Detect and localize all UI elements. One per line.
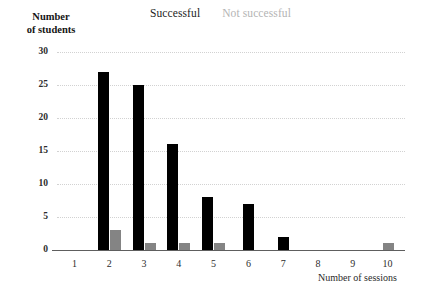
x-axis-line <box>52 250 405 251</box>
bar-group <box>162 144 196 250</box>
bar-group <box>266 237 300 250</box>
bar-group <box>231 204 265 250</box>
bar-successful <box>243 204 254 250</box>
y-axis-title-line-2: of students <box>27 24 76 35</box>
x-axis-tick-label: 2 <box>97 258 121 269</box>
y-axis-tick-label: 10 <box>22 178 48 188</box>
chart-legend: Successful Not successful <box>150 7 291 19</box>
legend-item-not-successful: Not successful <box>222 7 291 19</box>
y-axis-tick-label: 25 <box>22 79 48 89</box>
y-axis-title-line-1: Number <box>32 11 69 22</box>
x-axis-tick-label: 10 <box>376 258 400 269</box>
bar-group <box>197 197 231 250</box>
x-axis-tick-label: 3 <box>132 258 156 269</box>
bar-chart: Successful Not successful Number of stud… <box>0 0 423 296</box>
bar-group <box>371 243 405 250</box>
x-axis-tick-label: 4 <box>167 258 191 269</box>
bar-not-successful <box>179 243 190 250</box>
x-axis-tick-label: 9 <box>341 258 365 269</box>
bar-group <box>127 85 161 250</box>
bar-successful <box>202 197 213 250</box>
x-axis-tick-label: 5 <box>202 258 226 269</box>
y-axis-tick-label: 15 <box>22 145 48 155</box>
y-axis-title: Number of students <box>8 10 94 36</box>
bar-group <box>92 72 126 250</box>
bar-successful <box>167 144 178 250</box>
y-axis-tick-label: 0 <box>22 244 48 254</box>
bar-not-successful <box>214 243 225 250</box>
x-axis-tick-label: 6 <box>236 258 260 269</box>
plot-area <box>57 52 405 250</box>
x-axis-title: Number of sessions <box>318 272 397 283</box>
x-axis-tick-label: 8 <box>306 258 330 269</box>
bar-not-successful <box>110 230 121 250</box>
bar-not-successful <box>383 243 394 250</box>
bar-not-successful <box>145 243 156 250</box>
x-axis-tick-label: 7 <box>271 258 295 269</box>
bar-successful <box>133 85 144 250</box>
x-axis-tick-label: 1 <box>62 258 86 269</box>
y-axis-tick-label: 5 <box>22 211 48 221</box>
bar-successful <box>98 72 109 250</box>
bar-successful <box>278 237 289 250</box>
y-axis-tick-label: 30 <box>22 46 48 56</box>
legend-item-successful: Successful <box>150 7 200 19</box>
y-axis-tick-label: 20 <box>22 112 48 122</box>
